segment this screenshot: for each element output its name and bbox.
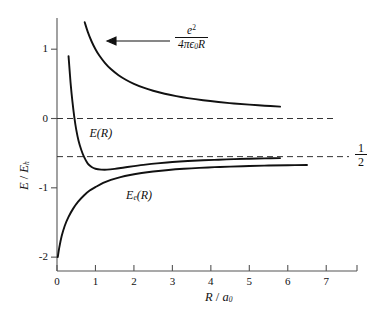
coulomb-annotation-arrow	[107, 37, 170, 45]
coulomb-numerator: e2	[175, 24, 208, 38]
ytick-label-0: 0	[0, 113, 48, 124]
figure-container: 1 0 -1 -2 0 1 2 3 4 5 6 7 E / Eh R / a0 …	[0, 0, 375, 315]
ytick-label-neg2: -2	[0, 251, 48, 262]
xtick-label-7: 7	[316, 276, 336, 287]
y-axis-ticks	[51, 49, 57, 257]
half-fraction: 1 2	[355, 142, 367, 168]
y-axis-title: E / Eh	[18, 161, 31, 190]
y-axis-title-denom-sub: h	[22, 161, 31, 165]
curve-label-Ee-tail: (R)	[137, 188, 152, 202]
xtick-label-4: 4	[201, 276, 221, 287]
y-axis-title-slash: /	[17, 173, 31, 183]
xtick-label-2: 2	[124, 276, 144, 287]
half-asymptote-label: 1 2	[355, 142, 367, 168]
curve-total-energy-E	[69, 56, 281, 170]
x-axis-title-slash: /	[213, 290, 223, 304]
xtick-label-1: 1	[85, 276, 105, 287]
coulomb-num-exponent: 2	[192, 23, 196, 32]
coulomb-den-pre: 4πϵ	[178, 38, 194, 50]
coulomb-denominator: 4πϵ0R	[175, 38, 208, 51]
curve-electronic-energy-Ee	[58, 165, 307, 257]
curve-label-electronic-energy: Ee(R)	[126, 189, 152, 202]
axis-lines	[57, 18, 357, 271]
x-axis-title-denom-sub: 0	[229, 295, 233, 304]
half-denominator: 2	[355, 155, 367, 168]
x-axis-title-main: R	[205, 290, 213, 304]
xtick-label-0: 0	[47, 276, 67, 287]
x-axis-title: R / a0	[205, 291, 232, 304]
y-axis-title-main: E	[17, 182, 31, 190]
y-axis-title-denom: E	[17, 165, 31, 173]
half-numerator: 1	[355, 142, 367, 155]
ytick-label-1: 1	[0, 43, 48, 54]
x-axis-ticks	[57, 265, 357, 271]
xtick-label-3: 3	[162, 276, 182, 287]
coulomb-formula-annotation: e2 4πϵ0R	[175, 24, 208, 50]
xtick-label-6: 6	[278, 276, 298, 287]
coulomb-den-post: R	[198, 38, 205, 50]
xtick-label-5: 5	[239, 276, 259, 287]
coulomb-fraction: e2 4πϵ0R	[175, 24, 208, 50]
curve-label-total-energy: E(R)	[90, 127, 113, 139]
